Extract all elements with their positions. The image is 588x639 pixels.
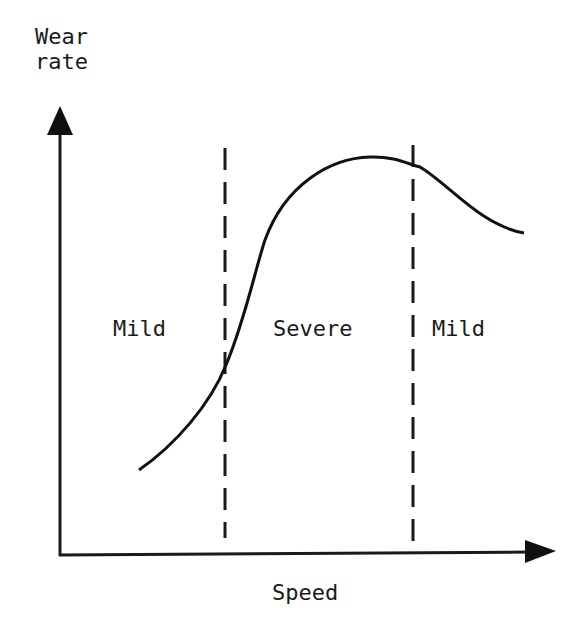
y-axis-label-line1: Wear bbox=[35, 24, 88, 49]
region-label-severe: Severe bbox=[273, 316, 352, 341]
region-label-mild-high: Mild bbox=[432, 316, 485, 341]
y-axis-label-line2: rate bbox=[35, 49, 88, 74]
y-axis-label: Wear rate bbox=[35, 24, 88, 75]
x-axis-arrow-icon bbox=[525, 540, 556, 563]
wear-rate-curve bbox=[139, 157, 524, 470]
region-label-mild-low: Mild bbox=[113, 316, 166, 341]
y-axis-arrow-icon bbox=[47, 106, 73, 135]
x-axis bbox=[59, 552, 530, 555]
x-axis-label: Speed bbox=[272, 580, 338, 605]
